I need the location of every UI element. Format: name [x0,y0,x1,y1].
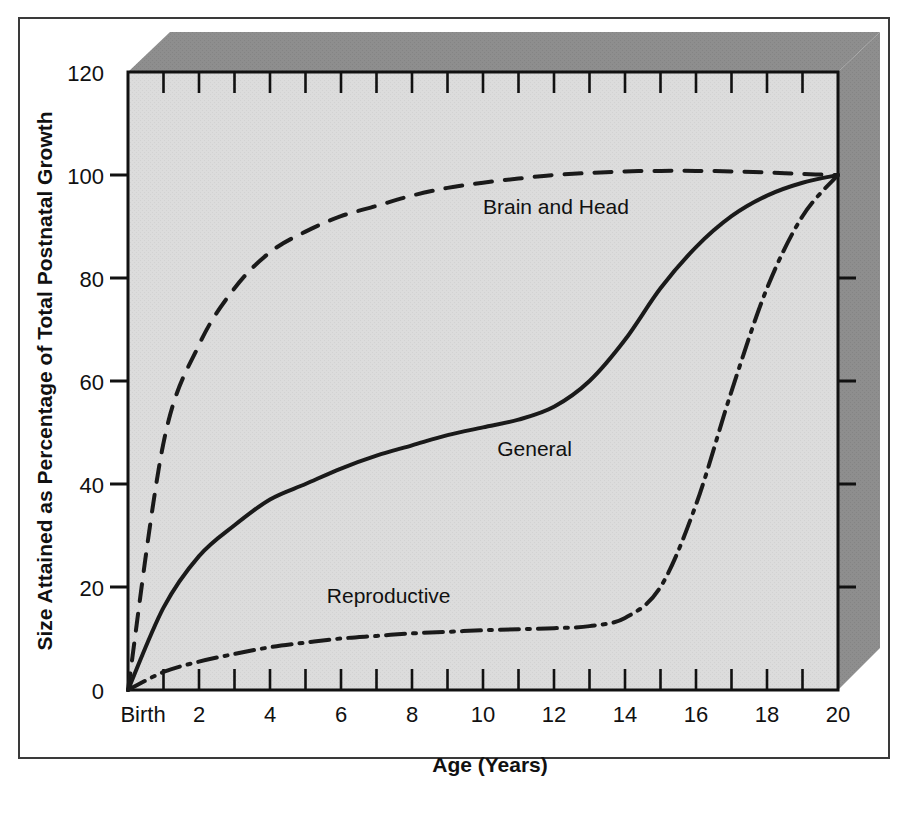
y-axis-tick-labels: 120 100 80 60 40 20 0 [67,61,104,704]
x-tick-label: 6 [335,702,347,727]
plot-top-bevel [128,32,880,72]
y-tick-label: 0 [92,679,104,704]
y-tick-label: 100 [67,164,104,189]
chart-canvas: 120 100 80 60 40 20 0 Birth 2 4 6 8 10 1… [0,0,910,816]
x-tick-label: 18 [755,702,779,727]
x-tick-label: 2 [193,702,205,727]
plot-area-background [128,72,838,690]
x-axis-tick-labels: Birth 2 4 6 8 10 12 14 16 18 20 [120,702,850,727]
x-tick-label: Birth [120,702,165,727]
y-tick-label: 40 [80,473,104,498]
y-tick-label: 20 [80,576,104,601]
y-axis-title: Size Attained as Percentage of Total Pos… [33,111,56,650]
x-axis-title: Age (Years) [432,753,548,776]
series-label-general: General [497,437,572,460]
x-tick-label: 14 [613,702,637,727]
growth-curves-figure: 120 100 80 60 40 20 0 Birth 2 4 6 8 10 1… [0,0,910,816]
y-tick-label: 60 [80,370,104,395]
x-tick-label: 10 [471,702,495,727]
x-tick-label: 12 [542,702,566,727]
x-tick-label: 20 [826,702,850,727]
x-tick-label: 16 [684,702,708,727]
left-axis-ticks [110,175,129,587]
series-label-brain-and-head: Brain and Head [483,195,629,218]
y-tick-label: 120 [67,61,104,86]
plot-right-bevel [838,32,880,690]
x-tick-label: 4 [264,702,276,727]
y-tick-label: 80 [80,267,104,292]
x-tick-label: 8 [406,702,418,727]
series-label-reproductive: Reproductive [327,584,451,607]
